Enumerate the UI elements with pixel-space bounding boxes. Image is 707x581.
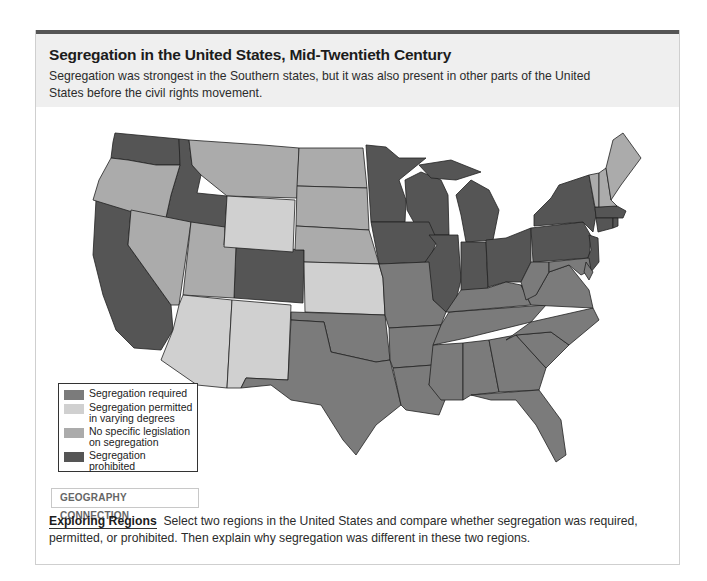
legend-label-permitted: Segregation permitted in varying degrees bbox=[89, 402, 193, 424]
state-mississippi bbox=[429, 343, 463, 400]
legend-item-permitted: Segregation permitted in varying degrees bbox=[64, 402, 193, 424]
state-montana bbox=[189, 140, 299, 198]
geography-connection-label: GEOGRAPHY CONNECTION bbox=[51, 488, 199, 508]
legend-label-prohibited: Segregation prohibited bbox=[89, 450, 193, 472]
legend-swatch-permitted bbox=[64, 404, 84, 414]
legend-item-no-legislation: No specific legislation on segregation bbox=[64, 426, 193, 448]
state-new-york bbox=[534, 175, 596, 232]
map-figure-panel: Segregation in the United States, Mid-Tw… bbox=[35, 30, 680, 565]
legend-label-required: Segregation required bbox=[89, 388, 187, 399]
map-legend: Segregation required Segregation permitt… bbox=[58, 383, 198, 472]
state-colorado bbox=[234, 245, 304, 303]
state-rhode-island bbox=[613, 218, 618, 228]
legend-item-prohibited: Segregation prohibited bbox=[64, 450, 193, 472]
state-kansas bbox=[304, 262, 385, 315]
exploring-regions-heading: Exploring Regions bbox=[49, 514, 157, 529]
state-massachusetts bbox=[595, 206, 626, 218]
state-wyoming bbox=[224, 196, 295, 252]
legend-swatch-required bbox=[64, 390, 84, 400]
state-maine bbox=[606, 133, 641, 200]
exploring-regions-activity: Exploring Regions Select two regions in … bbox=[49, 513, 649, 547]
state-nebraska bbox=[295, 226, 379, 264]
state-new-mexico bbox=[227, 300, 291, 388]
legend-swatch-prohibited bbox=[64, 452, 84, 462]
legend-swatch-no-legislation bbox=[64, 428, 84, 438]
state-north-dakota bbox=[297, 148, 367, 188]
state-iowa bbox=[371, 222, 437, 264]
state-connecticut bbox=[596, 218, 613, 232]
state-pennsylvania bbox=[531, 222, 591, 262]
state-south-dakota bbox=[296, 186, 369, 230]
legend-label-no-legislation: No specific legislation on segregation bbox=[89, 426, 193, 448]
legend-item-required: Segregation required bbox=[64, 388, 193, 400]
state-florida bbox=[471, 390, 566, 462]
